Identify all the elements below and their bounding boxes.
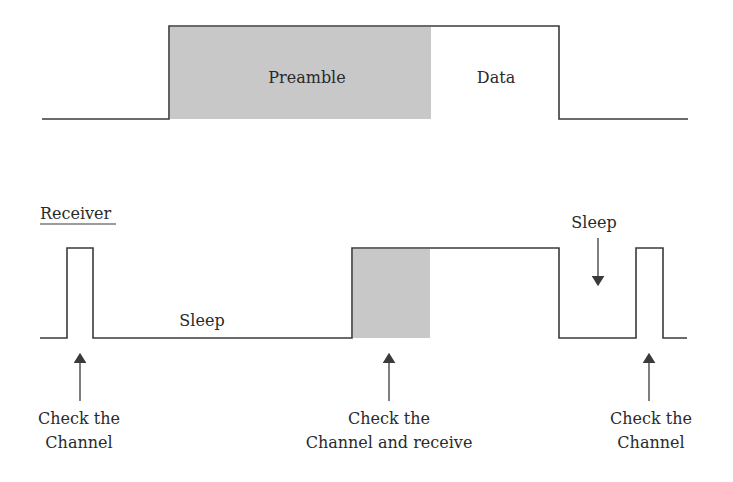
receiver-waveform: Receiver Sleep Sleep Check the Channel C… [38,204,692,452]
sleep-label-2: Sleep [571,213,616,232]
receive-shaded-region [353,249,430,338]
annotation-3-line2: Channel [617,433,684,452]
annotation-1-line2: Channel [45,433,112,452]
annotation-3-line1: Check the [610,409,692,428]
preamble-sampling-diagram: Preamble Data Receiver Sleep Sleep Check… [0,0,733,482]
data-label: Data [477,68,516,87]
annotation-2-line2: Channel and receive [306,433,473,452]
annotation-1-line1: Check the [38,409,120,428]
receiver-title: Receiver [40,204,112,223]
preamble-label: Preamble [268,68,345,87]
annotation-2-line1: Check the [348,409,430,428]
sleep-label-1: Sleep [179,311,224,330]
diagram-svg: Preamble Data Receiver Sleep Sleep Check… [0,0,733,482]
sender-waveform: Preamble Data [42,26,688,119]
